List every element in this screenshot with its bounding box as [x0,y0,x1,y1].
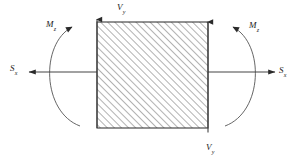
cross-section [97,22,208,128]
label-axial-left: Sx [10,64,17,75]
label-shear-bottom: Vy [206,143,214,154]
label-shear-top: Vy [117,3,125,14]
label-moment-left: Mz [46,20,56,31]
label-axial-right: Sx [279,66,286,77]
free-body-diagram: Vy Vy Mz Mz Sx Sx [0,0,301,158]
moment-arc-left [50,27,80,126]
label-moment-right: Mz [249,21,259,32]
moment-arc-right [225,27,255,126]
